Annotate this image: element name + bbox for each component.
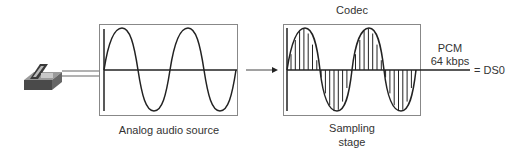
arrow-to-codec xyxy=(246,67,278,73)
pcm-label: PCM xyxy=(420,42,480,55)
analog-audio-box xyxy=(100,25,238,116)
diagram-canvas xyxy=(0,0,527,153)
codec-title: Codec xyxy=(283,4,421,17)
analog-audio-label: Analog audio source xyxy=(100,124,238,137)
telephone-icon xyxy=(24,64,62,90)
codec-sampling-box xyxy=(284,25,471,116)
sampling-label-line1: Sampling xyxy=(283,122,421,135)
bitrate-label: 64 kbps xyxy=(420,55,480,68)
ds0-label: = DS0 xyxy=(474,64,505,77)
sampling-label-line2: stage xyxy=(283,136,421,149)
